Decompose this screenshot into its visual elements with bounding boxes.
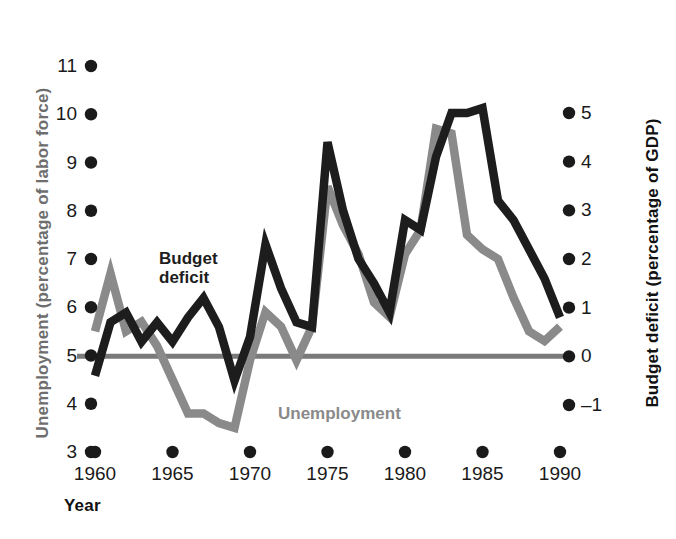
x-tick-1965: 1965 [143, 464, 203, 483]
series-label-unemployment: Unemployment [278, 404, 401, 423]
chart-figure: 34567891011 –1012345 1960196519701975198… [0, 0, 676, 539]
y-axis-left-title: Unemployment (percentage of labor force) [33, 53, 53, 473]
x-tick-1990: 1990 [530, 464, 590, 483]
y-right-tick--1: –1 [581, 395, 615, 414]
x-tick-1975: 1975 [298, 464, 358, 483]
y-right-tick-3: 3 [581, 200, 615, 219]
x-tick-1985: 1985 [453, 464, 513, 483]
y-axis-right-title: Budget deficit (percentage of GDP) [643, 53, 663, 473]
y-right-tick-1: 1 [581, 298, 615, 317]
x-tick-1980: 1980 [375, 464, 435, 483]
x-tick-1960: 1960 [65, 464, 125, 483]
x-tick-1970: 1970 [220, 464, 280, 483]
x-axis-title: Year [64, 496, 101, 516]
y-right-tick-4: 4 [581, 152, 615, 171]
y-right-tick-5: 5 [581, 103, 615, 122]
series-label-budget-deficit: Budget deficit [159, 249, 218, 287]
y-right-tick-0: 0 [581, 346, 615, 365]
chart-plot-area [0, 0, 676, 539]
y-right-tick-2: 2 [581, 249, 615, 268]
